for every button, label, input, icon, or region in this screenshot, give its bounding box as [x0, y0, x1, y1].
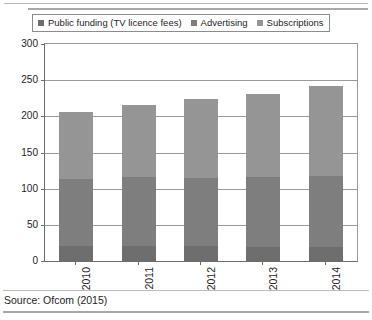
legend-item[interactable]: Advertising [191, 18, 248, 28]
plot-area [44, 43, 358, 262]
legend-item-label: Advertising [201, 18, 248, 28]
bar-segment[interactable] [59, 246, 93, 261]
y-axis-tick [41, 225, 45, 226]
bar-segment[interactable] [246, 177, 280, 246]
bar-segment[interactable] [59, 179, 93, 246]
legend-item[interactable]: Subscriptions [257, 18, 324, 28]
legend-swatch-icon [191, 20, 197, 26]
chart-figure: Public funding (TV licence fees)Advertis… [0, 0, 372, 320]
bar-segment[interactable] [122, 105, 156, 177]
chart-legend: Public funding (TV licence fees)Advertis… [32, 14, 330, 32]
x-axis-tick [325, 261, 326, 265]
bar-segment[interactable] [184, 99, 218, 178]
bar-stack[interactable] [246, 44, 280, 261]
footer-divider-top [3, 290, 369, 291]
x-axis-tick [262, 261, 263, 265]
legend-swatch-icon [38, 20, 44, 26]
y-axis-tick-label: 250 [21, 75, 38, 85]
x-axis-tick [75, 261, 76, 265]
bar-stack[interactable] [122, 44, 156, 261]
bar-stack[interactable] [184, 44, 218, 261]
bar-segment[interactable] [59, 112, 93, 179]
x-axis-tick-label: 2011 [144, 267, 155, 290]
bar-segment[interactable] [184, 178, 218, 246]
legend-item-label: Public funding (TV licence fees) [48, 18, 182, 28]
x-axis-tick-label: 2010 [81, 267, 92, 290]
source-note: Source: Ofcom (2015) [4, 294, 107, 306]
top-divider-thick [28, 8, 368, 10]
bar-segment[interactable] [246, 94, 280, 177]
y-axis-tick-label: 200 [21, 111, 38, 121]
bar-segment[interactable] [309, 176, 343, 247]
y-axis-tick [41, 116, 45, 117]
x-axis-tick-label: 2014 [331, 267, 342, 290]
bar-stack[interactable] [59, 44, 93, 261]
legend-swatch-icon [257, 20, 263, 26]
footer-divider-bottom [3, 311, 369, 313]
y-axis-tick-label: 50 [27, 220, 38, 230]
x-axis-tick [138, 261, 139, 265]
legend-item[interactable]: Public funding (TV licence fees) [38, 18, 182, 28]
top-divider-thin [4, 3, 368, 4]
y-axis-tick-label: 0 [32, 256, 38, 266]
y-axis-tick [41, 44, 45, 45]
y-axis-tick-label: 300 [21, 39, 38, 49]
y-axis-tick-label: 150 [21, 148, 38, 158]
x-axis-tick-label: 2013 [268, 267, 279, 290]
bar-segment[interactable] [309, 247, 343, 261]
y-axis-tick [41, 189, 45, 190]
y-axis-tick [41, 153, 45, 154]
x-axis-tick-label: 2012 [206, 267, 217, 290]
y-axis-tick-label: 100 [21, 184, 38, 194]
legend-item-label: Subscriptions [267, 18, 324, 28]
y-axis-tick [41, 80, 45, 81]
x-axis-tick [200, 261, 201, 265]
bar-segment[interactable] [309, 86, 343, 176]
bar-segment[interactable] [184, 246, 218, 261]
bar-stack[interactable] [309, 44, 343, 261]
bar-segment[interactable] [246, 247, 280, 261]
y-axis-labels: 050100150200250300 [0, 43, 38, 262]
bar-segment[interactable] [122, 177, 156, 246]
bar-segment[interactable] [122, 246, 156, 261]
